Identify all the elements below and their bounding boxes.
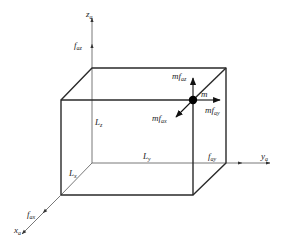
x-force-label: fax — [27, 209, 36, 220]
box-back-edges — [61, 68, 226, 195]
x-axis-label: xa — [13, 225, 21, 236]
y-force-label: fay — [208, 151, 217, 162]
dimension-y-label: Ly — [142, 151, 151, 162]
mass-force-z-label: mfaz — [172, 71, 187, 82]
rigid-body-acceleration-diagram: za faz ya fay xa fax Lz Ly Lx m mfaz mfa… — [0, 0, 283, 249]
mass-label: m — [201, 89, 208, 99]
mass-force-x-label: mfax — [152, 113, 167, 124]
z-axis-label: za — [85, 9, 93, 20]
y-axis-label: ya — [260, 151, 268, 162]
box-visible-edges — [61, 68, 226, 195]
z-force-label: faz — [74, 40, 83, 51]
mass-point — [189, 96, 197, 104]
dimension-z-label: Lz — [94, 117, 103, 128]
dimension-x-label: Lx — [68, 168, 77, 179]
mass-force-y-label: mfay — [205, 105, 220, 116]
